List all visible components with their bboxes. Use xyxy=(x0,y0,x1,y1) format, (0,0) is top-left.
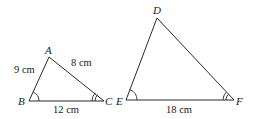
angle-c-arc-inner xyxy=(95,95,98,101)
side-label-ac: 8 cm xyxy=(71,57,92,68)
angle-f-arc-inner xyxy=(226,95,228,101)
triangle-abc: A B C 9 cm 8 cm 12 cm xyxy=(14,44,113,115)
side-label-bc: 12 cm xyxy=(53,104,79,115)
vertex-label-d: D xyxy=(152,4,161,16)
angle-b-arc xyxy=(33,92,39,101)
vertex-label-e: E xyxy=(115,95,123,107)
angle-e-arc xyxy=(130,90,137,100)
triangle-def: D E F 18 cm xyxy=(115,4,243,115)
side-label-ef: 18 cm xyxy=(166,104,192,115)
angle-f-arc-outer xyxy=(223,93,226,101)
triangle-def-outline xyxy=(126,18,234,100)
vertex-label-b: B xyxy=(18,95,25,107)
vertex-label-c: C xyxy=(105,95,113,107)
vertex-label-f: F xyxy=(235,95,243,107)
side-label-ab: 9 cm xyxy=(14,64,35,75)
vertex-label-a: A xyxy=(44,44,52,56)
triangle-abc-outline xyxy=(29,57,104,101)
similar-triangles-diagram: A B C 9 cm 8 cm 12 cm D E F 18 cm xyxy=(0,0,255,119)
